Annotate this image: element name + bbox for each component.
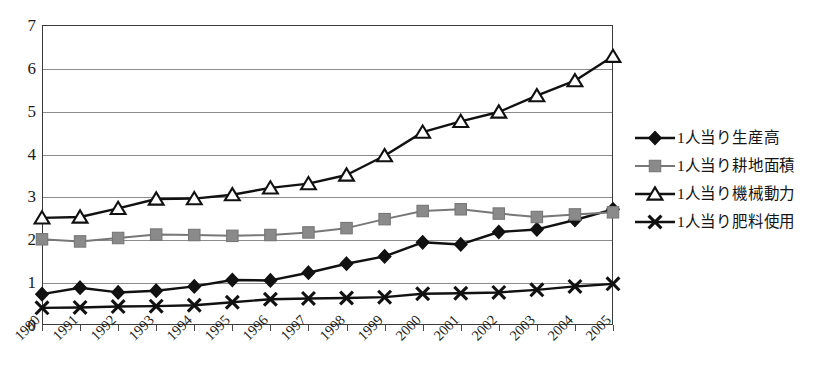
data-point xyxy=(227,230,238,241)
series-line xyxy=(42,284,613,308)
data-point xyxy=(150,284,162,297)
data-point xyxy=(112,286,124,299)
data-point xyxy=(606,50,621,62)
series-line xyxy=(42,209,613,241)
legend-item-label: 1人当り耕地面積 xyxy=(677,158,795,174)
data-point xyxy=(341,222,352,233)
data-point xyxy=(74,236,85,247)
series-layer xyxy=(42,25,613,325)
chart-legend: 1人当り生産高1人当り耕地面積1人当り機械動力1人当り肥料使用 xyxy=(633,124,813,236)
legend-item[interactable]: 1人当り耕地面積 xyxy=(633,152,813,180)
data-point xyxy=(74,281,86,294)
data-point xyxy=(151,229,162,240)
series-line xyxy=(42,56,613,218)
data-point xyxy=(378,250,390,263)
y-tick-label: 4 xyxy=(10,146,36,163)
data-point xyxy=(302,266,314,279)
data-point xyxy=(339,168,354,180)
legend-item-label: 1人当り機械動力 xyxy=(677,186,795,202)
y-tick-label: 7 xyxy=(10,17,36,34)
data-point xyxy=(568,74,583,86)
series-4 xyxy=(36,277,620,314)
data-point xyxy=(379,213,390,224)
data-point xyxy=(36,288,48,301)
legend-item[interactable]: 1人当り機械動力 xyxy=(633,180,813,208)
y-tick-label: 2 xyxy=(10,231,36,248)
y-tick-label: 1 xyxy=(10,274,36,291)
data-point xyxy=(529,89,544,101)
data-point xyxy=(607,207,618,218)
data-point xyxy=(569,209,580,220)
legend-item-label: 1人当り肥料使用 xyxy=(677,214,795,230)
data-point xyxy=(416,236,428,249)
data-point xyxy=(455,204,466,215)
x-axis: 1990199119921993199419951996199719981999… xyxy=(42,327,662,387)
legend-item-label: 1人当り生産高 xyxy=(677,130,779,146)
legend-item[interactable]: 1人当り生産高 xyxy=(633,124,813,152)
y-tick-label: 5 xyxy=(10,103,36,120)
y-tick-label: 3 xyxy=(10,188,36,205)
y-axis: 01234567 xyxy=(8,25,36,325)
data-point xyxy=(188,280,200,293)
data-point xyxy=(265,229,276,240)
data-point xyxy=(303,227,314,238)
x-marker-icon xyxy=(633,211,677,233)
series-3 xyxy=(35,50,621,224)
data-point xyxy=(36,234,47,245)
data-point xyxy=(226,273,238,286)
square-marker-icon xyxy=(633,155,677,177)
data-point xyxy=(493,225,505,238)
data-point xyxy=(189,229,200,240)
series-line xyxy=(42,209,613,294)
data-point xyxy=(377,149,392,161)
legend-item[interactable]: 1人当り肥料使用 xyxy=(633,208,813,236)
diamond-marker-icon xyxy=(633,127,677,149)
data-point xyxy=(417,205,428,216)
data-point xyxy=(491,105,506,117)
data-point xyxy=(531,211,542,222)
data-point xyxy=(531,223,543,236)
data-point xyxy=(493,208,504,219)
y-tick-label: 6 xyxy=(10,60,36,77)
triangle-marker-icon xyxy=(633,183,677,205)
data-point xyxy=(264,274,276,287)
data-point xyxy=(455,238,467,251)
data-point xyxy=(340,257,352,270)
chart-figure: 01234567 1990199119921993199419951996199… xyxy=(0,0,817,390)
data-point xyxy=(112,232,123,243)
